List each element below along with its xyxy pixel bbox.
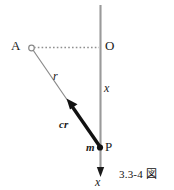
label-mass-m: m [86,142,95,153]
figure-caption: 3.3-4 図 [119,169,157,180]
label-point-o: O [105,39,114,52]
label-axis-x-upper: x [104,82,109,94]
label-vector-cr: cr [59,119,68,130]
thick-vector-arrowhead [67,99,78,110]
point-p-marker [97,144,103,150]
label-radius-r: r [53,70,58,82]
physics-figure: A O P r cr m x x 3.3-4 図 [0,0,174,190]
label-axis-x-lower: x [95,176,100,188]
figure-drawing-canvas [0,0,174,190]
label-point-p: P [105,140,112,153]
label-point-a: A [11,39,20,52]
